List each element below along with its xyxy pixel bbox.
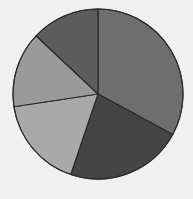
pie-slices [13,9,183,179]
pie-chart [0,0,193,199]
